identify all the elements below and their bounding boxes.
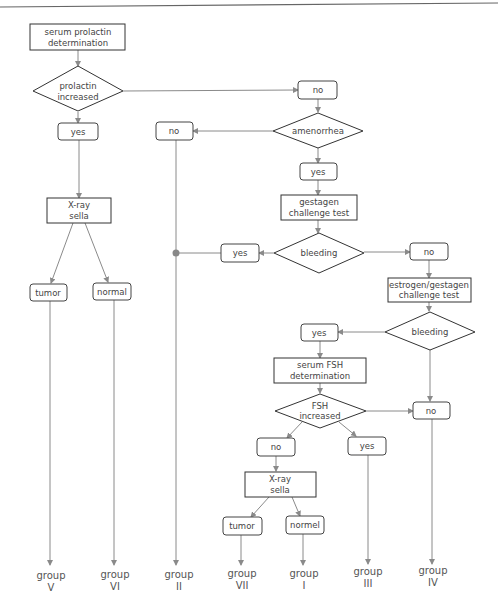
top-rule xyxy=(0,3,498,7)
group-iii: group III xyxy=(353,566,382,589)
group-label: group xyxy=(164,569,193,580)
node-no-bleeding-2: no xyxy=(413,402,450,419)
connector xyxy=(287,422,302,438)
group-ii: group II xyxy=(164,569,193,592)
node-no-bleeding-1: no xyxy=(410,243,448,260)
group-numeral: I xyxy=(303,580,306,591)
node-gestagen-test: gestagen challenge test xyxy=(281,195,357,220)
node-label: normal xyxy=(97,287,127,297)
node-label: serum FSH xyxy=(297,360,343,370)
node-estrogen-gestagen-test: estrogen/gestagen challenge test xyxy=(388,278,471,302)
node-xray-sella-1: X-ray sella xyxy=(47,198,111,223)
decision-label: bleeding xyxy=(412,327,449,337)
connector xyxy=(85,223,108,282)
decision-label: FSH xyxy=(312,401,329,411)
node-no-fsh: no xyxy=(257,438,295,456)
group-v: group V xyxy=(36,570,65,593)
node-label: yes xyxy=(311,167,326,177)
group-iv: group IV xyxy=(418,565,447,588)
group-label: group xyxy=(289,568,318,579)
group-numeral: V xyxy=(48,582,55,593)
node-label: no xyxy=(424,247,435,257)
node-tumor-1: tumor xyxy=(30,284,67,301)
decision-fsh-increased: FSH increased xyxy=(275,394,366,428)
group-label: group xyxy=(418,565,447,576)
decision-amenorrhea: amenorrhea xyxy=(273,113,363,148)
node-normal-1: normal xyxy=(93,283,131,300)
decision-label: prolactin xyxy=(59,81,96,91)
group-numeral: IV xyxy=(428,577,438,588)
decision-label: amenorrhea xyxy=(292,126,344,136)
connector xyxy=(123,90,298,91)
node-label: yes xyxy=(233,248,248,258)
node-label: determination xyxy=(290,371,350,381)
node-label: tumor xyxy=(35,288,61,298)
node-yes-bleeding-1: yes xyxy=(221,244,259,262)
node-tumor-2: tumor xyxy=(223,517,262,535)
node-yes-bleeding-2: yes xyxy=(301,324,338,341)
connector xyxy=(51,223,73,283)
node-label: challenge test xyxy=(399,290,460,300)
group-labels: group V group VI group II group VII grou… xyxy=(36,565,447,593)
decision-label: increased xyxy=(299,411,340,421)
decision-bleeding-2: bleeding xyxy=(385,312,475,350)
node-label: yes xyxy=(71,127,86,137)
node-yes-amenorrhea: yes xyxy=(300,163,337,180)
group-numeral: VI xyxy=(110,581,120,592)
node-label: X-ray xyxy=(68,200,90,210)
node-label: challenge test xyxy=(289,208,350,218)
node-label: no xyxy=(426,406,437,416)
node-label: no xyxy=(313,85,324,95)
node-label: yes xyxy=(360,441,375,451)
junction-dot xyxy=(173,250,180,257)
group-label: group xyxy=(36,570,65,581)
group-vi: group VI xyxy=(100,569,129,592)
node-label: determination xyxy=(48,38,108,48)
node-label: X-ray xyxy=(269,474,291,484)
node-normal-2: normel xyxy=(286,516,324,534)
node-label: yes xyxy=(312,328,327,338)
decision-prolactin-increased: prolactin increased xyxy=(33,66,123,111)
node-label: normel xyxy=(290,520,320,530)
group-i: group I xyxy=(289,568,318,591)
node-xray-sella-2: X-ray sella xyxy=(245,472,316,497)
node-label: no xyxy=(169,126,180,136)
node-serum-fsh: serum FSH determination xyxy=(274,358,366,383)
group-label: group xyxy=(353,566,382,577)
group-label: group xyxy=(100,569,129,580)
node-yes-fsh: yes xyxy=(348,437,386,455)
connectors xyxy=(50,50,432,565)
group-vii: group VII xyxy=(227,568,256,591)
node-label: sella xyxy=(69,211,89,221)
connector xyxy=(339,422,356,436)
node-label: sella xyxy=(270,485,290,495)
decision-bleeding-1: bleeding xyxy=(274,233,364,273)
node-label: estrogen/gestagen xyxy=(389,280,469,290)
node-no-prolactin: no xyxy=(298,81,337,99)
group-label: group xyxy=(227,568,256,579)
group-numeral: II xyxy=(176,581,182,592)
node-label: no xyxy=(271,442,282,452)
node-no-amenorrhea: no xyxy=(156,122,193,140)
node-serum-prolactin: serum prolactin determination xyxy=(30,24,125,50)
group-numeral: VII xyxy=(236,580,249,591)
node-label: serum prolactin xyxy=(45,27,112,37)
flowchart: serum prolactin determination prolactin … xyxy=(0,0,498,616)
node-yes-prolactin: yes xyxy=(58,123,98,140)
connector xyxy=(292,497,300,516)
decision-label: increased xyxy=(57,92,98,102)
group-numeral: III xyxy=(364,578,373,589)
connector xyxy=(251,497,269,517)
decision-label: bleeding xyxy=(301,248,338,258)
node-label: gestagen xyxy=(299,197,339,207)
node-label: tumor xyxy=(229,521,255,531)
